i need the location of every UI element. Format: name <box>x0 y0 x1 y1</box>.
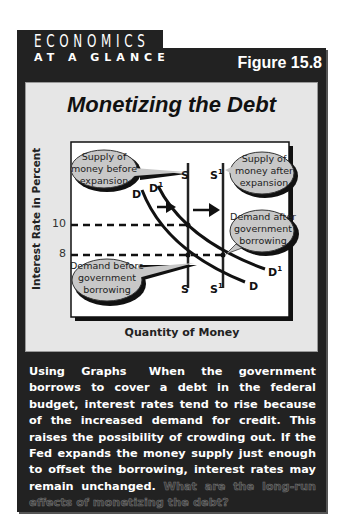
svg-text:expansion: expansion <box>80 175 129 186</box>
equilibrium-point <box>186 253 191 258</box>
caption: Using Graphs When the government borrows… <box>29 364 316 512</box>
equilibrium-point <box>186 223 191 228</box>
svg-text:money before: money before <box>71 163 137 174</box>
svg-text:Demand after: Demand after <box>230 211 296 222</box>
svg-text:government: government <box>234 223 292 234</box>
label-d: D <box>132 188 141 201</box>
svg-text:borrowing: borrowing <box>239 235 287 246</box>
svg-text:government: government <box>78 272 136 283</box>
svg-text:money after: money after <box>235 165 293 176</box>
svg-text:Supply of: Supply of <box>242 153 287 164</box>
label-s: S <box>181 169 189 182</box>
caption-lead: Using Graphs <box>29 365 127 378</box>
callout-demand-after: Demand after government borrowing <box>226 210 299 256</box>
equilibrium-point <box>221 253 226 258</box>
svg-text:Demand before: Demand before <box>70 260 144 271</box>
svg-text:expansion: expansion <box>240 177 289 188</box>
svg-text:Supply of: Supply of <box>82 151 127 162</box>
svg-text:borrowing: borrowing <box>83 284 131 295</box>
label-d-bottom: D <box>249 280 258 293</box>
label-s-bottom: S <box>181 283 189 296</box>
caption-text: When the government borrows to cover a d… <box>29 365 316 493</box>
